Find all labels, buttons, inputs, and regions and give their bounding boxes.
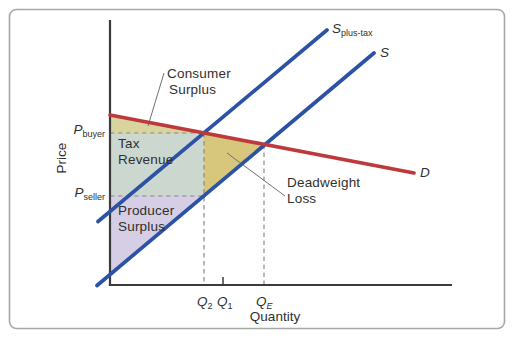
consumer-surplus-label-line2: Surplus — [169, 82, 216, 97]
q1-subscript: 1 — [228, 301, 233, 311]
price-axis-label: Price — [54, 143, 69, 174]
figure-frame — [10, 10, 505, 329]
economics-figure: Consumer Surplus Tax Revenue Deadweight … — [0, 0, 514, 338]
s-curve-label: S — [380, 45, 389, 60]
consumer-surplus-label-line1: Consumer — [167, 66, 231, 81]
deadweight-loss-label-line1: Deadweight — [287, 175, 360, 190]
d-curve-label: D — [420, 165, 430, 180]
tax-revenue-label-line1: Tax — [118, 136, 140, 151]
p-seller-subscript: seller — [83, 192, 105, 202]
p-buyer-symbol: P — [73, 122, 82, 137]
producer-surplus-label-line2: Surplus — [118, 219, 165, 234]
producer-surplus-label-line1: Producer — [118, 203, 175, 218]
s-plus-tax-subscript: plus-tax — [341, 28, 373, 38]
p-seller-symbol: P — [74, 185, 83, 200]
q1-symbol: Q — [217, 294, 228, 309]
s-plus-tax-symbol: S — [332, 21, 341, 36]
qe-symbol: Q — [256, 294, 267, 309]
qe-subscript: E — [267, 301, 274, 311]
q2-subscript: 2 — [208, 301, 213, 311]
p-buyer-subscript: buyer — [82, 129, 105, 139]
tax-incidence-diagram: Consumer Surplus Tax Revenue Deadweight … — [0, 0, 514, 338]
tax-revenue-label-line2: Revenue — [118, 152, 173, 167]
q2-symbol: Q — [197, 294, 208, 309]
quantity-axis-label: Quantity — [250, 309, 301, 324]
deadweight-loss-label-line2: Loss — [287, 191, 316, 206]
